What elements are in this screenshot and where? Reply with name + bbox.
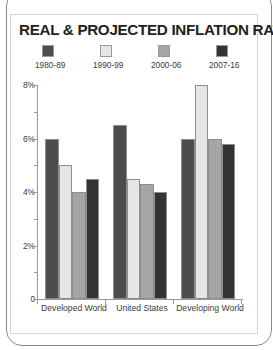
y-axis-tick [33, 246, 37, 247]
bar [154, 192, 168, 299]
bar-groups [37, 85, 243, 299]
chart-plot-area: 02%4%6%8% Developed WorldUnited StatesDe… [11, 85, 259, 333]
legend-label: 2007-16 [209, 60, 267, 70]
x-axis-line [37, 299, 243, 300]
legend-swatch-icon [158, 45, 170, 57]
x-axis-labels: Developed WorldUnited StatesDeveloping W… [37, 303, 243, 333]
x-axis-category-label: United States [105, 303, 179, 314]
legend-item-1990-99: 1990-99 [93, 45, 151, 70]
chart-card: REAL & PROJECTED INFLATION RATES 1980-89… [10, 14, 258, 334]
bar [72, 192, 86, 299]
bar [181, 139, 195, 300]
y-axis-minor-tick [34, 112, 37, 113]
legend-swatch-icon [42, 45, 54, 57]
y-axis-tick [33, 85, 37, 86]
bar [113, 125, 127, 299]
y-axis-tick [33, 192, 37, 193]
legend-item-1980-89: 1980-89 [35, 45, 93, 70]
x-axis-category-label: Developed World [37, 303, 111, 314]
legend-label: 1980-89 [35, 60, 93, 70]
legend-swatch-icon [100, 45, 112, 57]
bar [222, 144, 236, 299]
chart-legend: 1980-891990-992000-062007-16 [21, 45, 251, 75]
legend-label: 2000-06 [151, 60, 209, 70]
x-axis-category-label: Developing World [173, 303, 247, 314]
y-axis-minor-tick [34, 272, 37, 273]
bar-group [181, 85, 239, 299]
legend-item-2000-06: 2000-06 [151, 45, 209, 70]
bar [208, 139, 222, 300]
bar [127, 179, 141, 299]
chart-axes [37, 85, 243, 300]
legend-swatch-icon [216, 45, 228, 57]
y-axis-minor-tick [34, 165, 37, 166]
chart-title: REAL & PROJECTED INFLATION RATES [19, 21, 253, 38]
y-axis-tick [33, 139, 37, 140]
bar [59, 165, 73, 299]
bar [195, 85, 209, 299]
legend-item-2007-16: 2007-16 [209, 45, 267, 70]
bar [45, 139, 59, 300]
bar [86, 179, 100, 299]
bar-group [45, 85, 103, 299]
bar [140, 184, 154, 299]
y-axis-minor-tick [34, 219, 37, 220]
bar-group [113, 85, 171, 299]
legend-label: 1990-99 [93, 60, 151, 70]
y-axis-tick [33, 299, 37, 300]
